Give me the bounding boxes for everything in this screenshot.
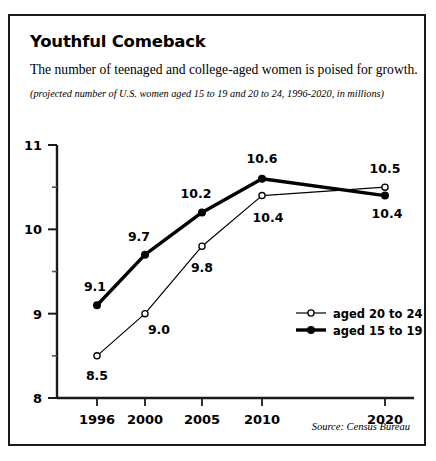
data-point-label: 9.7 — [128, 229, 150, 244]
x-tick-label: 1996 — [79, 412, 115, 427]
data-point-marker — [382, 184, 388, 190]
legend-label: aged 20 to 24 — [333, 307, 422, 321]
data-point-marker — [199, 243, 205, 249]
data-point-marker — [94, 353, 100, 359]
line-chart: 891011 19962000200520102020 8.59.09.810.… — [10, 16, 428, 448]
y-tick-label: 10 — [24, 222, 42, 237]
data-point-marker — [199, 210, 205, 216]
data-point-marker — [259, 193, 265, 199]
data-point-label: 8.5 — [86, 368, 108, 383]
chart-axes — [57, 145, 414, 398]
x-tick-label: 2000 — [127, 412, 163, 427]
y-axis-ticks: 891011 — [24, 138, 57, 406]
x-axis-ticks: 19962000200520102020 — [79, 398, 403, 427]
legend-label: aged 15 to 19 — [333, 324, 422, 338]
data-point-label: 9.1 — [84, 279, 106, 294]
chart-legend: aged 20 to 24aged 15 to 19 — [296, 307, 422, 338]
x-tick-label: 2010 — [244, 412, 280, 427]
data-point-marker — [142, 311, 148, 317]
data-point-label: 10.5 — [370, 161, 401, 176]
data-point-marker — [94, 302, 100, 308]
figure-panel: Youthful Comeback The number of teenaged… — [8, 14, 426, 446]
legend-marker — [308, 327, 314, 333]
data-point-label: 10.4 — [372, 206, 403, 221]
data-point-label: 9.8 — [191, 260, 213, 275]
data-point-label: 9.0 — [148, 322, 170, 337]
y-tick-label: 9 — [33, 307, 42, 322]
data-point-label: 10.2 — [181, 186, 212, 201]
y-tick-label: 8 — [33, 391, 42, 406]
y-tick-label: 11 — [24, 138, 42, 153]
data-point-label: 10.4 — [253, 210, 284, 225]
data-point-label: 10.6 — [247, 151, 278, 166]
data-point-marker — [142, 252, 148, 258]
x-tick-label: 2020 — [367, 412, 403, 427]
data-point-marker — [382, 193, 388, 199]
legend-marker — [308, 310, 314, 316]
data-point-marker — [259, 176, 265, 182]
x-tick-label: 2005 — [184, 412, 220, 427]
